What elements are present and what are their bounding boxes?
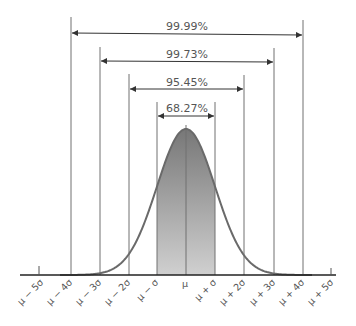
axis-labels: μ − 5σ μ − 4σ μ − 3σ μ − 2σ μ − σ μ μ + …: [15, 277, 335, 307]
arrow-99-73: [101, 61, 273, 62]
axis-label-minus-2-sigma: μ − 2σ: [102, 277, 132, 307]
axis-label-minus-4-sigma: μ − 4σ: [44, 277, 74, 307]
axis-label-plus-2-sigma: μ + 2σ: [217, 277, 247, 307]
axis-label-minus-3-sigma: μ − 3σ: [73, 277, 103, 307]
axis-label-plus-5-sigma: μ + 5σ: [305, 277, 335, 307]
axis-label-plus-3-sigma: μ + 3σ: [247, 277, 277, 307]
axis-label-minus-5-sigma: μ − 5σ: [15, 277, 45, 307]
normal-distribution-diagram: 99.99% 99.73% 95.45% 68.27% μ − 5σ μ − 4…: [0, 0, 356, 326]
interval-label-99-99: 99.99%: [166, 20, 208, 33]
axis-label-plus-1-sigma: μ + σ: [192, 277, 218, 303]
arrow-99-99: [72, 33, 302, 35]
diagram-svg: 99.99% 99.73% 95.45% 68.27% μ − 5σ μ − 4…: [0, 0, 356, 326]
interval-label-68-27: 68.27%: [166, 102, 208, 115]
axis-label-plus-4-sigma: μ + 4σ: [276, 277, 306, 307]
interval-label-99-73: 99.73%: [166, 48, 208, 61]
interval-label-95-45: 95.45%: [166, 76, 208, 89]
axis-label-mean: μ: [182, 278, 188, 289]
axis-label-minus-1-sigma: μ − σ: [134, 277, 160, 303]
